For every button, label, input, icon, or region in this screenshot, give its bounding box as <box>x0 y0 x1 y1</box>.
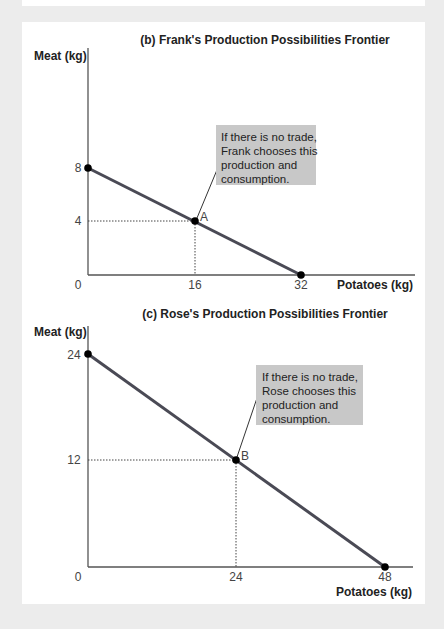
rose-chart: (c) Rose's Production Possibilities Fron… <box>34 307 413 599</box>
rose-x-tick-24: 24 <box>229 570 243 584</box>
rose-point-b-label: B <box>241 449 249 463</box>
rose-y-tick-12: 12 <box>67 453 81 467</box>
frank-x-tick-16: 16 <box>188 278 202 292</box>
ppf-figure: (b) Frank's Production Possibilities Fro… <box>0 0 444 629</box>
frank-y-tick-8: 8 <box>75 161 82 175</box>
rose-y-axis-label: Meat (kg) <box>34 325 87 339</box>
rose-point-b <box>232 456 240 464</box>
frank-chart: (b) Frank's Production Possibilities Fro… <box>34 33 415 292</box>
frank-chart-title: (b) Frank's Production Possibilities Fro… <box>140 33 390 47</box>
frank-y-axis-label: Meat (kg) <box>34 49 87 63</box>
rose-x-axis-label: Potatoes (kg) <box>336 585 412 599</box>
frank-point-a-label: A <box>200 210 208 224</box>
frank-point-potato-intercept <box>297 271 305 279</box>
frank-x-tick-32: 32 <box>294 278 308 292</box>
rose-point-potato-intercept <box>381 563 389 571</box>
rose-chart-title: (c) Rose's Production Possibilities Fron… <box>142 307 388 321</box>
frank-point-a <box>191 217 199 225</box>
rose-y-tick-24: 24 <box>67 348 81 362</box>
frank-origin-label: 0 <box>75 278 82 292</box>
rose-point-meat-intercept <box>84 350 92 358</box>
frank-x-axis-label: Potatoes (kg) <box>337 278 413 292</box>
frank-point-meat-intercept <box>84 164 92 172</box>
rose-x-tick-48: 48 <box>378 570 392 584</box>
frank-y-tick-4: 4 <box>75 214 82 228</box>
rose-origin-label: 0 <box>75 570 82 584</box>
